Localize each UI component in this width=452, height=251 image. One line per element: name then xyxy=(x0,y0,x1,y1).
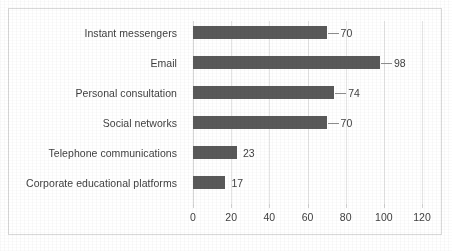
axis-tick-label: 100 xyxy=(369,211,399,223)
chart-container: Instant messengers Email Personal consul… xyxy=(8,8,442,235)
category-label: Email xyxy=(150,56,177,70)
axis-tick-label: 60 xyxy=(293,211,323,223)
axis-tick-label: 0 xyxy=(178,211,208,223)
gridline xyxy=(422,21,423,204)
axis-tick-label: 120 xyxy=(407,211,437,223)
bar-value-label: 17 xyxy=(231,176,243,190)
axis-tick xyxy=(269,204,270,208)
leader-line xyxy=(381,63,392,64)
leader-line xyxy=(335,93,346,94)
axis-tick xyxy=(346,204,347,208)
category-label: Personal consultation xyxy=(76,86,177,100)
bar-value-label: 98 xyxy=(394,56,406,70)
category-axis: Instant messengers Email Personal consul… xyxy=(9,9,185,236)
axis-tick-label: 80 xyxy=(331,211,361,223)
bars-layer: 709874702317 xyxy=(193,21,422,204)
axis-tick xyxy=(231,204,232,208)
axis-tick xyxy=(193,204,194,208)
bar-value-label: 23 xyxy=(243,146,255,160)
leader-line xyxy=(328,123,339,124)
category-label: Telephone communications xyxy=(49,146,177,160)
axis-tick xyxy=(384,204,385,208)
category-label: Corporate educational platforms xyxy=(26,176,177,190)
category-label: Social networks xyxy=(103,116,177,130)
axis-tick xyxy=(422,204,423,208)
bar-value-label: 70 xyxy=(341,26,353,40)
leader-line xyxy=(328,33,339,34)
bar-value-label: 70 xyxy=(341,116,353,130)
bar xyxy=(193,86,334,99)
plot-area: 709874702317 xyxy=(193,21,422,204)
category-label: Instant messengers xyxy=(84,26,177,40)
bar xyxy=(193,116,327,129)
axis-tick-label: 20 xyxy=(216,211,246,223)
axis-tick xyxy=(308,204,309,208)
bar xyxy=(193,26,327,39)
bar xyxy=(193,176,225,189)
bar-value-label: 74 xyxy=(348,86,360,100)
bar xyxy=(193,146,237,159)
axis-tick-label: 40 xyxy=(254,211,284,223)
value-axis: 020406080100120 xyxy=(193,204,422,234)
bar xyxy=(193,56,380,69)
